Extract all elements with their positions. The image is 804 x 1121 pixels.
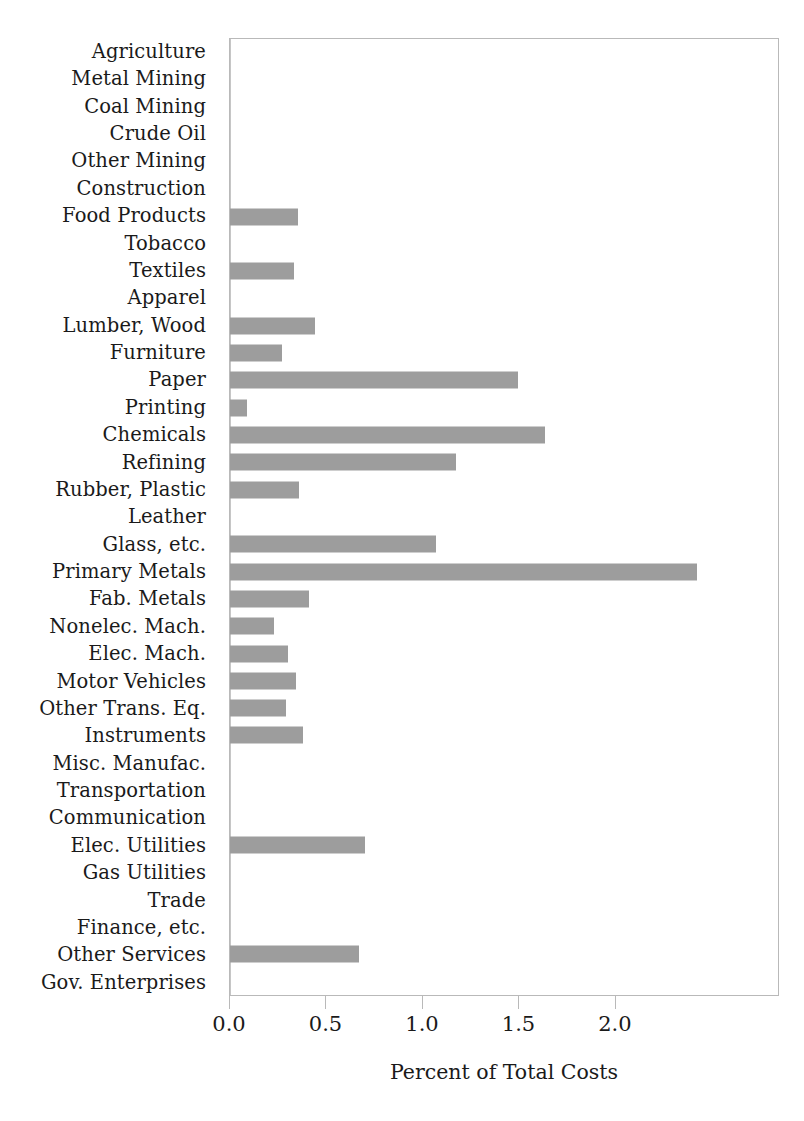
bar [230,590,309,607]
bar-row [230,148,778,175]
bar-row [230,968,778,995]
x-axis-tick-label: 0.5 [309,1014,342,1035]
x-axis: 0.00.51.01.52.0 [229,996,779,1010]
bar-row [230,531,778,558]
bar-row [230,558,778,585]
bar [230,700,286,717]
x-axis-tick [518,996,519,1009]
x-axis-tick [325,996,326,1009]
y-axis-tick-label: Communication [0,805,212,832]
bar-row [230,421,778,448]
bar-row [230,230,778,257]
bar-row [230,39,778,66]
bar-row [230,394,778,421]
bar [230,208,298,225]
y-axis-tick-label: Nonelec. Mach. [0,613,212,640]
bar-row [230,176,778,203]
bar-row [230,503,778,530]
y-axis-tick-label: Elec. Utilities [0,832,212,859]
bar [230,427,545,444]
x-axis-tick-label: 1.5 [502,1014,535,1035]
y-axis-tick-label: Tobacco [0,230,212,257]
bar-row [230,776,778,803]
bar-row [230,285,778,312]
y-axis-tick-label: Lumber, Wood [0,312,212,339]
y-axis-tick-label: Leather [0,503,212,530]
y-axis-tick-label: Food Products [0,202,212,229]
bar-row [230,94,778,121]
bar [230,345,282,362]
bar [230,263,294,280]
bar-row [230,886,778,913]
y-axis-tick-label: Furniture [0,339,212,366]
bar-row [230,940,778,967]
bar-row [230,831,778,858]
x-axis-tick [422,996,423,1009]
y-axis-tick-label: Instruments [0,722,212,749]
y-axis-tick-label: Motor Vehicles [0,668,212,695]
bar [230,645,288,662]
y-axis-tick-label: Other Mining [0,148,212,175]
y-axis-tick-label: Fab. Metals [0,586,212,613]
bar [230,481,299,498]
bar [230,727,303,744]
bar-row [230,258,778,285]
x-axis-tick [229,996,230,1009]
bar-row [230,695,778,722]
bar-row [230,585,778,612]
y-axis-tick-label: Apparel [0,284,212,311]
y-axis-tick-label: Elec. Mach. [0,640,212,667]
y-axis-tick-label: Finance, etc. [0,914,212,941]
y-axis-tick-label: Misc. Manufac. [0,750,212,777]
y-axis-tick-label: Other Trans. Eq. [0,695,212,722]
bar-row [230,667,778,694]
y-axis-tick-label: Rubber, Plastic [0,476,212,503]
bar [230,563,697,580]
bar [230,836,365,853]
bar-row [230,640,778,667]
bar [230,618,274,635]
bar [230,536,436,553]
y-axis-tick-label: Transportation [0,777,212,804]
bar-row [230,312,778,339]
x-axis-title: Percent of Total Costs [229,1062,779,1083]
x-axis-tick-label: 0.0 [212,1014,245,1035]
bar-row [230,367,778,394]
bar-row [230,913,778,940]
bar-row [230,339,778,366]
bar-row [230,804,778,831]
y-axis-tick-label: Paper [0,367,212,394]
bar [230,454,456,471]
y-axis-tick-label: Other Services [0,941,212,968]
y-axis-tick-label: Printing [0,394,212,421]
bars-container [230,39,778,995]
bar [230,945,359,962]
y-axis-tick-label: Glass, etc. [0,531,212,558]
x-axis-tick-label: 2.0 [598,1014,631,1035]
y-axis-category-labels: AgricultureMetal MiningCoal MiningCrude … [0,38,212,996]
bar-chart: AgricultureMetal MiningCoal MiningCrude … [0,0,804,1121]
x-axis-tick [615,996,616,1009]
bar-row [230,203,778,230]
bar-row [230,66,778,93]
y-axis-tick-label: Agriculture [0,38,212,65]
bar-row [230,858,778,885]
bar-row [230,449,778,476]
bar-row [230,476,778,503]
y-axis-tick-label: Construction [0,175,212,202]
bar [230,372,518,389]
y-axis-tick-label: Textiles [0,257,212,284]
bar-row [230,749,778,776]
bar-row [230,722,778,749]
y-axis-tick-label: Metal Mining [0,65,212,92]
bar [230,399,247,416]
y-axis-tick-label: Gas Utilities [0,859,212,886]
y-axis-tick-label: Crude Oil [0,120,212,147]
y-axis-tick-label: Chemicals [0,421,212,448]
plot-area [229,38,779,996]
y-axis-tick-label: Refining [0,449,212,476]
bar-row [230,613,778,640]
x-axis-tick-label: 1.0 [405,1014,438,1035]
bar [230,672,296,689]
y-axis-tick-label: Coal Mining [0,93,212,120]
